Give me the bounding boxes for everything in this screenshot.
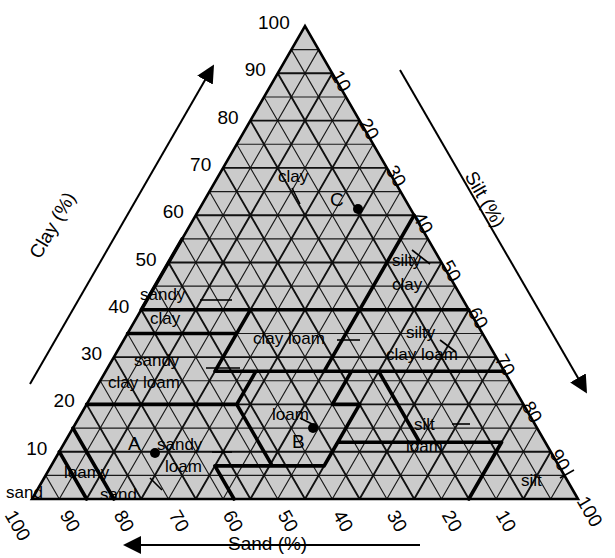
point-label-c: C — [330, 190, 344, 209]
point-label-b: B — [292, 432, 305, 451]
class-label-sandy-clay-1: sandy — [140, 286, 185, 303]
clay-tick-40: 40 — [108, 297, 129, 316]
clay-tick-20: 20 — [54, 391, 75, 410]
class-label-loam: loam — [272, 406, 309, 423]
point-marker-b — [308, 423, 318, 433]
sand-axis-title: Sand (%) — [228, 534, 307, 553]
class-label-clay-loam: clay loam — [253, 330, 325, 347]
clay-tick-100: 100 — [258, 13, 290, 32]
class-label-clay: clay — [278, 168, 308, 185]
clay-tick-60: 60 — [163, 202, 184, 221]
class-label-loamy-sand-2: sand — [100, 486, 137, 503]
clay-tick-50: 50 — [136, 250, 157, 269]
class-label-silty-clay-loam-1: silty — [406, 324, 435, 341]
clay-tick-70: 70 — [190, 155, 211, 174]
class-label-silty-clay-1: silty — [392, 252, 421, 269]
class-label-silt: silt — [521, 472, 542, 489]
class-label-sandy-loam-1: sandy — [157, 436, 202, 453]
clay-tick-30: 30 — [81, 344, 102, 363]
class-label-sandy-loam-2: loam — [165, 458, 202, 475]
class-label-silt-loam-2: loam — [406, 438, 443, 455]
point-marker-c — [353, 204, 363, 214]
class-label-loamy-sand: loamy — [64, 464, 109, 481]
class-label-sand: sand — [6, 484, 43, 501]
clay-tick-90: 90 — [245, 60, 266, 79]
clay-tick-10: 10 — [26, 439, 47, 458]
soil-texture-triangle-figure: 102030405060708090100 102030405060708090… — [0, 0, 615, 558]
class-label-silt-loam-1: silt — [414, 416, 435, 433]
class-label-sandy-clay-loam-2: clay loam — [108, 374, 180, 391]
class-label-sandy-clay-loam-1: sandy — [134, 352, 179, 369]
class-label-sandy-clay-2: clay — [150, 310, 180, 327]
class-label-silty-clay-loam-2: clay loam — [386, 346, 458, 363]
clay-tick-80: 80 — [217, 108, 238, 127]
class-label-silty-clay-2: clay — [392, 276, 422, 293]
point-label-a: A — [128, 434, 141, 453]
